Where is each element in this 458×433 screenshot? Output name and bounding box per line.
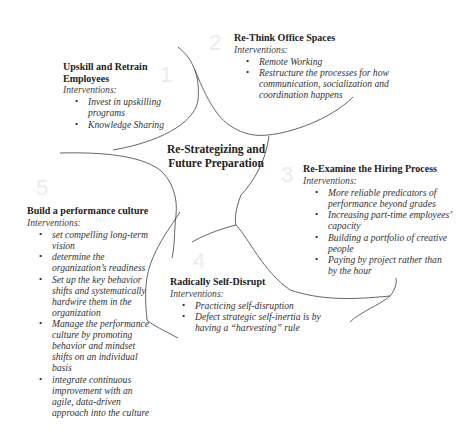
section-number-2: 2 [209,30,221,56]
section-radically-self-disrupt: Radically Self-Disrupt Interventions: Pr… [170,276,330,334]
central-topic-line-1: Re-Strategizing and [161,142,271,156]
section-subtitle: Interventions: [170,288,330,299]
section-title: Re-Examine the Hiring Process [303,163,453,175]
section-title: Build a performance culture [27,205,155,217]
divider-line-6 [350,296,390,322]
intervention-list: More reliable predicators of performance… [303,187,453,277]
intervention-item: Restructure the processes for how commun… [259,67,439,100]
central-topic: Re-Strategizing and Future Preparation [161,142,271,170]
intervention-item: Increasing part-time employees’ capacity [328,209,453,231]
section-subtitle: Interventions: [234,44,439,55]
section-upskill-retrain: Upskill and Retrain Employees Interventi… [63,61,183,130]
intervention-item: More reliable predicators of performance… [328,187,453,209]
section-subtitle: Interventions: [303,175,453,186]
intervention-item: integrate continuous improvement with an… [52,374,155,418]
intervention-item: Paying by project rather than by the hou… [328,254,453,276]
section-number-3: 3 [281,162,293,188]
section-subtitle: Interventions: [63,84,183,95]
section-number-5: 5 [36,175,48,201]
intervention-list: Practicing self-disruption Defect strate… [170,300,330,334]
section-title: Radically Self-Disrupt [170,276,330,288]
intervention-item: set compelling long-term vision [52,229,155,251]
intervention-item: Set up the key behavior shifts and syste… [52,274,155,318]
section-rethink-office-spaces: Re-Think Office Spaces Interventions: Re… [234,32,439,101]
intervention-list: Remote Working Restructure the processes… [234,56,439,101]
intervention-list: Invest in upskilling programs Knowledge … [63,96,183,130]
section-reexamine-hiring: Re-Examine the Hiring Process Interventi… [303,163,453,277]
intervention-item: determine the organization’s readiness [52,251,155,273]
intervention-item: Practicing self-disruption [195,300,330,311]
intervention-item: Defect strategic self-inertia is by havi… [195,311,330,333]
intervention-item: Manage the performance culture by promot… [52,318,155,373]
intervention-item: Invest in upskilling programs [88,96,183,118]
central-topic-line-2: Future Preparation [161,156,271,170]
section-subtitle: Interventions: [27,217,155,228]
intervention-item: Knowledge Sharing [88,119,183,130]
intervention-item: Remote Working [259,56,439,67]
section-title: Upskill and Retrain Employees [63,61,183,84]
intervention-list: set compelling long-term vision determin… [27,229,155,418]
section-build-performance-culture: Build a performance culture Intervention… [27,205,155,418]
section-number-4: 4 [193,248,205,274]
section-title: Re-Think Office Spaces [234,32,439,44]
intervention-item: Building a portfolio of creative people [328,232,453,254]
